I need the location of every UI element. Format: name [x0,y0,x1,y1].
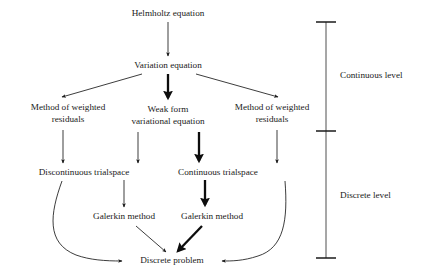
node-discontinuous-trialspace: Discontinuous trialspace [39,167,130,177]
node-mwr-right-line1: Method of weighted [235,102,310,112]
node-helmholtz-equation: Helmholtz equation [132,8,205,18]
node-weak-form-line1: Weak form [148,104,189,114]
label-discrete-level: Discrete level [340,190,391,200]
flowchart-canvas: Helmholtz equation Variation equation Me… [0,0,425,279]
edge-galerkin-left-to-discrete-problem [136,226,166,252]
node-discrete-problem: Discrete problem [140,255,204,265]
edge-galerkin-right-to-discrete-problem [178,226,202,251]
node-mwr-left-line1: Method of weighted [31,102,106,112]
flowchart-figure: Helmholtz equation Variation equation Me… [0,0,425,279]
node-continuous-trialspace: Continuous trialspace [178,167,258,177]
edge-variation-to-mwr-right [196,74,278,97]
node-weak-form-line2: variational equation [131,116,205,126]
edge-variation-to-mwr-left [62,74,142,97]
node-variation-equation: Variation equation [134,60,202,70]
label-continuous-level: Continuous level [340,70,403,80]
node-galerkin-method-right: Galerkin method [181,211,243,221]
node-mwr-right-line2: residuals [256,114,289,124]
node-galerkin-method-left: Galerkin method [93,211,155,221]
node-mwr-left-line2: residuals [52,114,85,124]
